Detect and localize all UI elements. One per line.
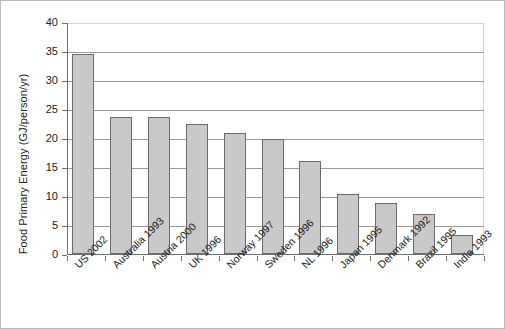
x-axis-tick-mark [257,256,258,261]
bar [299,161,321,254]
x-axis-tick-mark [219,256,220,261]
x-axis-tick-mark [408,256,409,261]
y-axis-tick-label: 10 [22,191,58,202]
y-axis-tick-label: 5 [22,220,58,231]
x-axis-tick-mark [332,256,333,261]
bar [224,133,246,254]
y-axis-tick-label: 20 [22,133,58,144]
y-axis-tick-label: 40 [22,17,58,28]
x-axis-tick-mark [446,256,447,261]
bar-chart-figure: Food Primary Energy (GJ/person/yr) 05101… [0,0,505,329]
x-axis-tick-mark [181,256,182,261]
x-axis-tick-mark [105,256,106,261]
x-axis-tick-mark [67,256,68,261]
y-axis-tick-label: 25 [22,104,58,115]
y-axis-tick-label: 30 [22,75,58,86]
gridline [68,52,484,53]
x-axis-tick-mark [484,256,485,261]
plot-frame-top [68,23,484,24]
gridline [68,81,484,82]
gridline [68,110,484,111]
bar [110,117,132,254]
y-axis-tick-label: 35 [22,46,58,57]
x-axis-tick-mark [370,256,371,261]
y-axis-tick-label: 15 [22,162,58,173]
x-axis-tick-mark [294,256,295,261]
x-axis-tick-mark [143,256,144,261]
bar [72,54,94,254]
y-axis-tick-label: 0 [22,249,58,260]
